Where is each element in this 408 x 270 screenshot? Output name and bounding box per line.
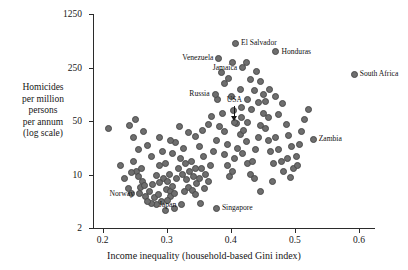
- data-point: [275, 111, 282, 118]
- data-point: [249, 158, 256, 165]
- x-axis-tick: [103, 229, 104, 233]
- data-point: [181, 188, 188, 195]
- data-point: [238, 104, 245, 111]
- data-point: [243, 138, 250, 145]
- annotation-south-africa: South Africa: [360, 70, 399, 78]
- data-point: [225, 75, 232, 82]
- y-axis-tick-label: 10: [48, 170, 82, 180]
- data-point: [262, 125, 269, 132]
- data-point-zambia: [310, 136, 317, 143]
- data-point: [192, 133, 199, 140]
- data-point: [183, 176, 190, 183]
- annotation-norway: Norway: [109, 190, 133, 198]
- annotation-japan: Japan: [159, 201, 176, 209]
- x-axis-tick-label: 0.2: [83, 235, 123, 245]
- data-point: [221, 151, 228, 158]
- data-point-el-salvador: [232, 40, 239, 47]
- data-point: [288, 143, 295, 150]
- data-point: [117, 162, 124, 169]
- data-point: [144, 142, 151, 149]
- data-point: [167, 137, 174, 144]
- x-axis-tick-label: 0.5: [275, 235, 315, 245]
- y-axis-tick-label: 50: [48, 116, 82, 126]
- data-point: [130, 134, 137, 141]
- data-point: [296, 141, 303, 148]
- data-point: [138, 165, 145, 172]
- x-axis-tick: [231, 229, 232, 233]
- x-axis-tick: [295, 229, 296, 233]
- data-point: [171, 190, 178, 197]
- annotation-usa: USA: [227, 96, 242, 104]
- data-point: [176, 123, 183, 130]
- data-point: [230, 107, 237, 114]
- data-point: [166, 171, 173, 178]
- data-point: [257, 78, 264, 85]
- data-point-honduras: [272, 48, 279, 55]
- data-point: [252, 146, 259, 153]
- y-axis-label: Homicides per million persons per annum …: [4, 82, 82, 140]
- y-axis-line: [93, 14, 94, 229]
- data-point: [275, 146, 282, 153]
- data-point: [305, 106, 312, 113]
- data-point-singapore: [213, 205, 220, 212]
- data-point: [255, 99, 262, 106]
- data-point: [244, 96, 251, 103]
- data-point: [156, 134, 163, 141]
- usa-leader-arrow: [231, 116, 237, 121]
- data-point: [244, 119, 251, 126]
- data-point: [298, 128, 305, 135]
- data-point: [269, 178, 276, 185]
- data-point: [260, 91, 267, 98]
- data-point: [229, 168, 236, 175]
- annotation-venezuela: Venezuela: [182, 54, 213, 62]
- data-point: [280, 168, 287, 175]
- data-point-russia: [212, 91, 219, 98]
- data-point-jamaica: [239, 64, 246, 71]
- data-point: [169, 183, 176, 190]
- x-axis-tick-label: 0.3: [147, 235, 187, 245]
- x-axis-line: [93, 228, 375, 229]
- data-point: [200, 153, 207, 160]
- data-point: [253, 68, 260, 75]
- data-point: [239, 150, 246, 157]
- data-point: [210, 148, 217, 155]
- data-point: [240, 127, 247, 134]
- x-axis-tick: [167, 229, 168, 233]
- y-axis-label-line-1: Homicides: [4, 82, 82, 94]
- data-point: [192, 191, 199, 198]
- data-point: [185, 129, 192, 136]
- data-point: [219, 110, 226, 117]
- data-point: [130, 158, 137, 165]
- data-point: [140, 128, 147, 135]
- data-point: [262, 98, 269, 105]
- data-point-venezuela: [215, 55, 222, 62]
- y-axis-label-line-5: (log scale): [4, 128, 82, 140]
- data-point: [221, 128, 228, 135]
- x-axis-tick-label: 0.6: [339, 235, 379, 245]
- data-point: [272, 93, 279, 100]
- data-point: [162, 160, 169, 167]
- data-point: [301, 116, 308, 123]
- y-axis-tick: [89, 175, 93, 176]
- data-point-japan: [178, 201, 185, 208]
- x-axis-tick: [359, 229, 360, 233]
- y-axis-tick: [89, 121, 93, 122]
- data-point: [283, 121, 290, 128]
- data-point: [293, 153, 300, 160]
- annotation-singapore: Singapore: [222, 204, 253, 212]
- data-point: [201, 185, 208, 192]
- y-axis-tick: [89, 68, 93, 69]
- data-point: [132, 116, 139, 123]
- data-point: [294, 162, 301, 169]
- x-axis-label: Income inequality (household-based Gini …: [0, 250, 408, 261]
- data-point: [144, 198, 151, 205]
- scatter-chart-figure: Homicides per million persons per annum …: [0, 0, 408, 270]
- data-point: [156, 179, 163, 186]
- data-point: [265, 114, 272, 121]
- data-point: [248, 106, 255, 113]
- data-point: [196, 143, 203, 150]
- data-point: [188, 158, 195, 165]
- data-point: [213, 137, 220, 144]
- y-axis-tick-label: 250: [48, 63, 82, 73]
- data-point: [251, 87, 258, 94]
